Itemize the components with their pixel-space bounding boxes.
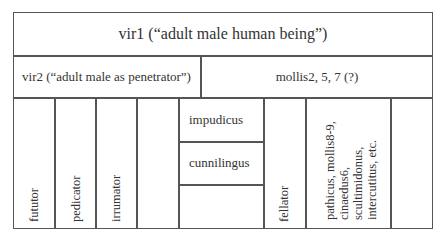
row2-divider xyxy=(13,97,433,99)
cell-pathicus-line2: cinaedus6, xyxy=(337,167,351,220)
cell-cunnilingus: cunnilingus xyxy=(189,155,250,171)
col-divider xyxy=(95,97,97,228)
cell-pedicator: pedicator xyxy=(69,175,83,222)
col-divider xyxy=(263,97,265,228)
row1-label: vir1 (“adult male human being”) xyxy=(0,25,446,43)
cell-pathicus-line3: scultimidonus, xyxy=(351,147,365,220)
row2-right-label: mollis2, 5, 7 (?) xyxy=(201,69,433,85)
row2-left-label: vir2 (“adult male as penetrator”) xyxy=(13,69,200,85)
cell-pathicus-line1: pathicus, mollis8-9, xyxy=(323,121,337,220)
cell-irrumator: irrumator xyxy=(109,175,123,222)
col-divider xyxy=(136,97,138,228)
stack-divider xyxy=(178,184,264,186)
cell-pathicus-line4: intercutitus, etc. xyxy=(365,140,379,220)
col-divider xyxy=(305,97,307,228)
cell-fututor: fututor xyxy=(27,188,41,222)
col-divider xyxy=(178,97,180,228)
col-divider xyxy=(390,97,392,228)
col-divider xyxy=(54,97,56,228)
stack-divider xyxy=(178,141,264,143)
row1-divider xyxy=(13,55,433,57)
cell-fellator: fellator xyxy=(277,186,291,222)
cell-impudicus: impudicus xyxy=(189,112,243,128)
